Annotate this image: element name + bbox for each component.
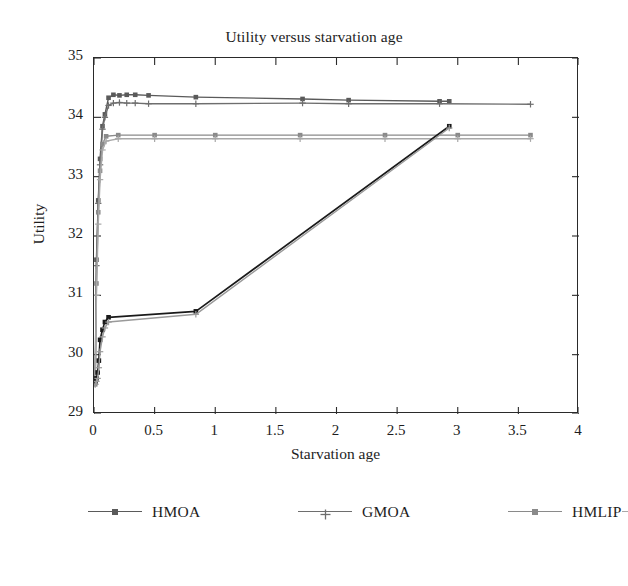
data-point-marker [145,100,151,106]
legend-item-hmlip[interactable]: HMLIP [508,498,622,525]
y-tick-label: 33 [43,166,83,183]
data-point-marker [111,92,116,97]
y-tick-label: 29 [43,403,83,420]
y-tick-label: 31 [43,284,83,301]
legend-line [622,511,628,513]
series-line-gmoa [95,103,530,379]
data-point-marker [116,99,122,105]
data-point-marker [527,101,533,107]
plot-area [93,57,578,413]
data-point-marker [124,92,129,97]
data-point-marker [97,349,103,355]
x-tick-label: 2.5 [376,422,416,439]
x-tick-label: 0.5 [134,422,174,439]
data-point-marker [124,100,130,106]
legend-swatch-hmoa-icon [88,505,142,519]
x-tick-label: 0 [73,422,113,439]
legend-label: GMOA [362,503,411,521]
legend-marker-square-icon [532,509,538,515]
series-line-hmpf [95,126,449,381]
chart-legend: HMOAGMOAHMLIPGMLIPHMPFGMPF [88,498,508,525]
data-point-marker [106,95,111,100]
x-tick-label: 4 [558,422,598,439]
x-tick-label: 3 [437,422,477,439]
legend-item-hmoa[interactable]: HMOA [88,498,298,525]
legend-marker-square-icon [112,509,118,515]
legend-label: HMOA [152,503,201,521]
y-tick-label: 34 [43,106,83,123]
x-tick-label: 3.5 [497,422,537,439]
data-point-marker [97,176,103,182]
series-line-hmoa [95,95,449,382]
legend-swatch-gmoa-icon [298,505,352,519]
x-tick-label: 1.5 [255,422,295,439]
x-tick-label: 2 [316,422,356,439]
series-line-hmlip [95,135,530,384]
data-point-marker [146,93,151,98]
plot-canvas [94,58,579,414]
data-point-marker [193,100,199,106]
data-point-marker [132,100,138,106]
chart-title: Utility versus starvation age [0,28,628,46]
y-tick-label: 32 [43,225,83,242]
legend-swatch-gmlip-icon [622,505,628,519]
data-point-marker [117,93,122,98]
y-axis-label: Utility [30,179,48,269]
chart-figure: Utility versus starvation age Utility St… [0,0,628,586]
data-point-marker [94,292,100,298]
series-line-gmlip [95,139,530,385]
data-point-marker [133,92,138,97]
data-point-marker [447,99,452,104]
x-axis-label: Starvation age [93,445,578,463]
data-point-marker [194,95,199,100]
legend-item-gmlip[interactable]: GMLIP [622,498,628,525]
legend-swatch-hmlip-icon [508,505,562,519]
legend-item-gmoa[interactable]: GMOA [298,498,508,525]
y-tick-label: 35 [43,47,83,64]
legend-label: HMLIP [572,503,622,521]
y-tick-label: 30 [43,344,83,361]
data-point-marker [96,365,102,371]
legend-marker-plus-icon [320,506,329,515]
x-tick-label: 1 [194,422,234,439]
data-point-marker [95,221,101,227]
